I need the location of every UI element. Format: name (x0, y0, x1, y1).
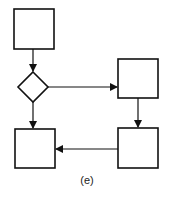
box-bottom-left (15, 129, 55, 168)
flowchart-canvas (0, 0, 174, 201)
box-bottom-right (118, 128, 158, 168)
box-top-left (14, 9, 54, 49)
box-top-right (118, 59, 158, 98)
figure-caption: (e) (0, 174, 174, 186)
decision-diamond (18, 72, 48, 102)
